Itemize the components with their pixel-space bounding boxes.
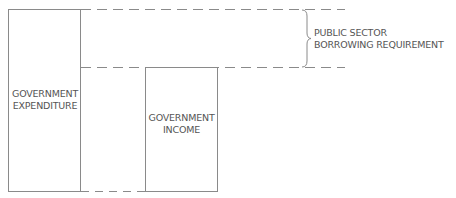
curly-brace-icon	[302, 10, 311, 67]
income-label-line2: INCOME	[144, 124, 219, 136]
psbr-label: PUBLIC SECTOR BORROWING REQUIREMENT	[314, 27, 444, 51]
expenditure-label-line2: EXPENDITURE	[8, 100, 82, 112]
psbr-label-line2: BORROWING REQUIREMENT	[314, 39, 444, 51]
psbr-label-line1: PUBLIC SECTOR	[314, 27, 444, 39]
income-label-line1: GOVERNMENT	[144, 112, 219, 124]
expenditure-label-line1: GOVERNMENT	[8, 88, 82, 100]
income-label: GOVERNMENT INCOME	[144, 112, 219, 136]
expenditure-label: GOVERNMENT EXPENDITURE	[8, 88, 82, 112]
